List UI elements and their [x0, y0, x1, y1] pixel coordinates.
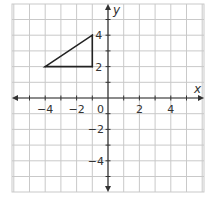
x-tick-label: −2 — [68, 103, 84, 116]
triangle-vertex — [92, 34, 94, 36]
x-axis-label: x — [193, 82, 202, 96]
coordinate-plane: −4−22442−2−40xy — [0, 0, 207, 204]
x-tick-label: 2 — [136, 103, 143, 116]
y-tick-label: 2 — [95, 61, 102, 74]
x-tick-label: 4 — [167, 103, 174, 116]
x-tick-label: −4 — [37, 103, 53, 116]
y-axis-label: y — [112, 3, 121, 17]
triangle-vertex — [44, 66, 46, 68]
triangle-vertex — [92, 66, 94, 68]
y-tick-label: 4 — [95, 29, 102, 42]
y-tick-label: −4 — [88, 155, 104, 168]
origin-label: 0 — [97, 103, 104, 116]
y-tick-label: −2 — [88, 123, 104, 136]
